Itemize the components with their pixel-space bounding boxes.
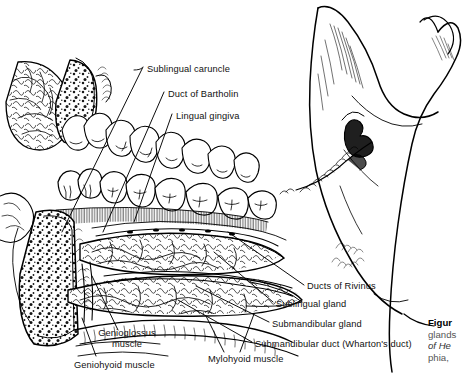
caption-line-3: of He [428,340,451,351]
label-geniohyoid-muscle: Geniohyoid muscle [74,360,155,371]
label-genioglossus-muscle: Genioglossus muscle [94,328,160,349]
label-submandibular-gland: Submandibular gland [272,319,362,330]
caption-line-2: glands [428,329,462,341]
caption-figure-number: Figur [428,317,452,328]
figure-artwork [0,0,462,373]
label-lingual-gingiva: Lingual gingiva [176,111,240,122]
figure-caption: Figur glands of He phia, [428,317,462,363]
label-genioglossus-line2: muscle [112,339,142,349]
label-sublingual-gland: Sublingual gland [276,299,346,310]
leader-mylohyoid-muscle-2 [240,314,254,352]
label-ducts-of-rivinus: Ducts of Rivinus [307,281,376,292]
anatomical-figure [0,0,462,373]
condyle-shading [432,36,454,60]
caption-line-4: phia, [428,352,462,364]
label-submandibular-duct: Submandibular duct (Wharton's duct) [255,339,412,350]
label-genioglossus-line1: Genioglossus [98,328,156,338]
label-sublingual-caruncle: Sublingual caruncle [147,64,230,75]
coronoid-shading [318,24,363,110]
label-mylohyoid-muscle: Mylohyoid muscle [208,354,284,365]
label-duct-of-bartholin: Duct of Bartholin [168,89,238,100]
left-gland-tissue [0,193,34,242]
